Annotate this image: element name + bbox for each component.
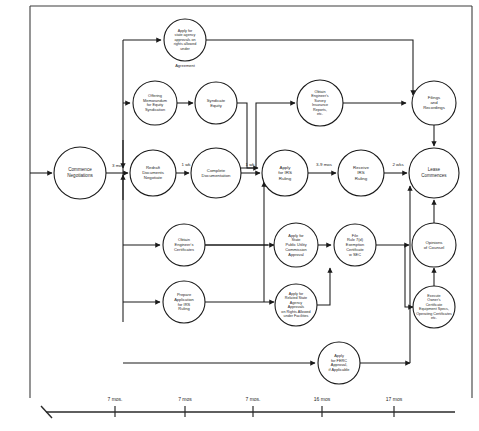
node-lease_commences[interactable]: LeaseCommences: [409, 148, 459, 198]
node-label-state_agency_agreement: approvals on: [174, 38, 195, 42]
node-label-opinions: of Counsel: [424, 245, 445, 250]
node-label-owners_cert: Execute: [427, 294, 440, 298]
node-label-engineers_survey: Obtain: [315, 90, 326, 94]
edge-label-three-mos: 3 mos: [112, 163, 125, 168]
node-label-state_agency_agreement: Apply for: [178, 29, 193, 33]
node-label-state_agency_agreement: rights allowed: [174, 42, 197, 46]
timeline-tick-label-tick-3: 7 mos.: [245, 396, 260, 402]
node-engineers_cert[interactable]: ObtainEngineer'sCertificates: [163, 224, 205, 266]
node-opinions[interactable]: Opinionsof Counsel: [412, 223, 456, 267]
node-label-state_agency_agreement: state agency: [175, 33, 196, 37]
node-label-offering_memo: Syndication: [145, 107, 165, 112]
node-label-prepare_irs: Ruling: [178, 306, 189, 311]
node-label-apply_irs: for IRS: [278, 170, 292, 175]
node-commence[interactable]: CommenceNegotiations: [54, 147, 106, 199]
node-label-apply_irs: Apply: [280, 165, 292, 170]
node-label-related_state: Agency: [290, 301, 302, 305]
node-label-state_puc: Approval: [288, 252, 303, 257]
node-label-filings_recordings: Filings: [428, 95, 440, 100]
node-label-owners_cert: Equipment Specs,: [419, 307, 449, 311]
node-label-receive_irs: IRS: [357, 170, 364, 175]
node-label-ferc: if Applicable: [329, 367, 350, 372]
node-label-receive_irs: Receive: [353, 165, 369, 170]
node-label-owners_cert: Owner's: [427, 298, 441, 302]
node-offering_memo[interactable]: OfferingMemorandumfor EquitySyndication: [133, 81, 177, 125]
flowchart-nodes: CommenceNegotiationsRedraftDocumentsNego…: [54, 19, 459, 384]
page-frame: [30, 6, 472, 398]
node-label-owners_cert: etc.: [431, 316, 437, 320]
node-state_puc[interactable]: Apply forStatePublic UtilityCommissionAp…: [274, 223, 318, 267]
node-label-complete_doc: Documentation: [202, 173, 232, 178]
edge-syndicate-rail: [237, 103, 247, 160]
node-filings_recordings[interactable]: FilingsandRecordings: [412, 81, 456, 125]
node-prepare_irs[interactable]: PrepareApplicationfor IRSRuling: [163, 281, 205, 323]
node-engineers_survey[interactable]: ObtainEngineer'sSurveyInsuranceReports,e…: [297, 80, 343, 126]
node-label-related_state: on Rights Allowed: [281, 310, 310, 314]
node-label-redraft: Negotiate: [144, 175, 163, 180]
timeline-axis: 7 mos.7 mos7 mos.16 mos17 mos: [41, 396, 455, 418]
edge-relatedstate-rule7d: [317, 268, 330, 305]
timeline-tick-label-tick-5: 17 mos: [386, 396, 403, 402]
node-label-apply_irs: Ruling: [279, 176, 292, 181]
timeline-tick-label-tick-2: 7 mos: [178, 396, 192, 402]
node-label-engineers_survey: Engineer's: [311, 94, 328, 98]
node-label-receive_irs: Ruling: [355, 176, 368, 181]
diagram-page: CommenceNegotiationsRedraftDocumentsNego…: [0, 0, 479, 431]
node-label-engineers_cert: Certificates: [174, 247, 194, 252]
node-rule_7d[interactable]: FileRule 7(d)ExemptionCertificatew SEC: [334, 224, 376, 266]
node-label-related_state: Related State: [285, 296, 307, 300]
node-label-engineers_survey: Reports,: [313, 108, 327, 112]
node-label-syndicate_equity: Equity: [210, 103, 223, 108]
node-label-engineers_survey: Insurance: [312, 103, 328, 107]
node-label-engineers_survey: Survey: [314, 99, 326, 103]
node-label-rule_7d: w SEC: [349, 252, 361, 257]
node-label-related_state: under Facilities: [284, 314, 309, 318]
flow-connectors: [30, 40, 434, 363]
node-label-related_state: Apply for: [289, 292, 304, 296]
node-label-owners_cert: Operating Certificates: [416, 312, 452, 316]
edge-label-one-wk-a: 1 wk: [181, 162, 191, 167]
timeline-tick-label-tick-4: 16 mos: [314, 396, 331, 402]
edge-rail-ownerscert: [405, 245, 413, 307]
node-label-related_state: Approvals: [288, 305, 305, 309]
node-redraft[interactable]: RedraftDocumentsNegotiate: [130, 150, 176, 196]
node-owners_cert[interactable]: ExecuteOwner'sCertificateEquipment Specs…: [413, 286, 455, 328]
node-syndicate_equity[interactable]: SyndicateEquity: [195, 82, 237, 124]
node-complete_doc[interactable]: CompleteDocumentation: [191, 148, 241, 198]
node-ferc[interactable]: Applyfor FERCApproval,if Applicable: [318, 342, 360, 384]
node-label-lease_commences: Lease: [428, 167, 441, 172]
node-label-engineers_survey: etc.: [317, 112, 323, 116]
node-apply_irs[interactable]: Applyfor IRSRuling: [262, 150, 308, 196]
node-state_agency_agreement[interactable]: Apply forstate agencyapprovals onrights …: [164, 19, 206, 68]
node-label-commence: Commence: [68, 167, 92, 172]
node-label-filings_recordings: Recordings: [423, 105, 445, 110]
timeline-tick-label-tick-1: 7 mos.: [107, 396, 122, 402]
node-label-lease_commences: Commences: [421, 173, 447, 178]
edge-label-one-wk-b: 1 wk: [245, 162, 255, 167]
node-receive_irs[interactable]: ReceiveIRSRuling: [338, 150, 384, 196]
node-related_state[interactable]: Apply forRelated StateAgencyApprovalson …: [275, 284, 317, 326]
flowchart-canvas: CommenceNegotiationsRedraftDocumentsNego…: [0, 0, 479, 431]
node-label-redraft: Redraft: [146, 165, 161, 170]
node-sublabel-state_agency_agreement: Agreement: [175, 63, 195, 68]
edge-label-three-nine-mos: 3-9 mos: [316, 162, 333, 167]
node-label-owners_cert: Certificate: [426, 303, 443, 307]
node-label-state_agency_agreement: under: [180, 47, 190, 51]
edge-label-two-wks: 2 wks: [392, 162, 404, 167]
node-label-commence: Negotiations: [67, 173, 93, 178]
